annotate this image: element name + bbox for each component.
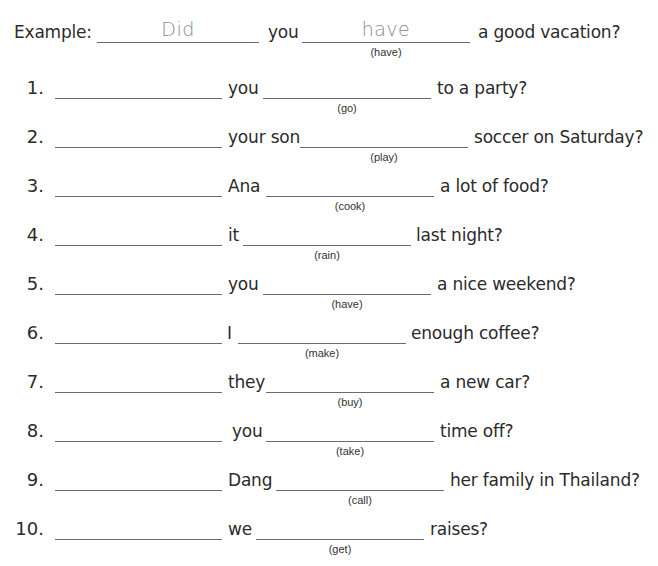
blank-verb[interactable] <box>266 196 434 197</box>
item-number: 9. <box>8 468 44 492</box>
exercise-row-1: 1. you (go) to a party? <box>0 76 658 106</box>
blank-auxiliary[interactable] <box>55 196 222 197</box>
blank-auxiliary[interactable] <box>55 539 222 540</box>
item-subject: your son <box>228 125 300 149</box>
exercise-row-7: 7. they (buy) a new car? <box>0 370 658 400</box>
exercise-row-6: 6. I (make) enough coffee? <box>0 321 658 351</box>
exercise-row-8: 8. you (take) time off? <box>0 419 658 449</box>
item-ending: raises? <box>430 517 488 541</box>
item-number: 5. <box>8 272 44 296</box>
blank-auxiliary[interactable] <box>55 147 222 148</box>
blank-auxiliary[interactable] <box>55 98 222 99</box>
item-ending: time off? <box>440 419 513 443</box>
item-hint: (make) <box>238 347 406 359</box>
item-hint: (call) <box>276 494 444 506</box>
item-number: 1. <box>8 76 44 100</box>
item-hint: (buy) <box>266 396 434 408</box>
item-subject: you <box>232 419 263 443</box>
item-number: 8. <box>8 419 44 443</box>
item-subject: you <box>228 272 259 296</box>
example-answer-2: have <box>302 18 470 40</box>
example-hint: (have) <box>302 46 470 58</box>
blank-verb[interactable] <box>263 98 431 99</box>
example-blank-1[interactable] <box>97 42 259 43</box>
example-label: Example: <box>14 20 92 44</box>
item-subject: I <box>227 321 232 345</box>
item-ending: a nice weekend? <box>437 272 576 296</box>
item-hint: (cook) <box>266 200 434 212</box>
exercise-row-10: 10. we (get) raises? <box>0 517 658 547</box>
blank-auxiliary[interactable] <box>55 343 222 344</box>
blank-verb[interactable] <box>266 392 434 393</box>
item-number: 2. <box>8 125 44 149</box>
item-ending: a lot of food? <box>440 174 549 198</box>
item-number: 7. <box>8 370 44 394</box>
item-ending: soccer on Saturday? <box>474 125 643 149</box>
example-ending: a good vacation? <box>478 20 620 44</box>
blank-verb[interactable] <box>300 147 468 148</box>
example-blank-2[interactable] <box>302 42 470 43</box>
item-subject: Dang <box>228 468 272 492</box>
item-subject: you <box>228 76 259 100</box>
item-subject: it <box>228 223 239 247</box>
exercise-row-9: 9. Dang (call) her family in Thailand? <box>0 468 658 498</box>
item-ending: her family in Thailand? <box>450 468 640 492</box>
item-hint: (have) <box>263 298 431 310</box>
item-hint: (play) <box>300 151 468 163</box>
item-ending: enough coffee? <box>411 321 539 345</box>
item-number: 10. <box>8 517 44 541</box>
blank-auxiliary[interactable] <box>55 392 222 393</box>
item-ending: a new car? <box>440 370 530 394</box>
exercise-row-4: 4. it (rain) last night? <box>0 223 658 253</box>
exercise-row-3: 3. Ana (cook) a lot of food? <box>0 174 658 204</box>
blank-verb[interactable] <box>263 294 431 295</box>
blank-verb[interactable] <box>256 539 424 540</box>
blank-auxiliary[interactable] <box>55 490 222 491</box>
blank-verb[interactable] <box>243 245 411 246</box>
blank-verb[interactable] <box>276 490 444 491</box>
blank-auxiliary[interactable] <box>55 441 222 442</box>
item-subject: Ana <box>228 174 260 198</box>
blank-auxiliary[interactable] <box>55 294 222 295</box>
example-answer-1: Did <box>97 18 259 40</box>
item-number: 3. <box>8 174 44 198</box>
item-number: 6. <box>8 321 44 345</box>
item-ending: last night? <box>416 223 503 247</box>
example-subject: you <box>268 20 299 44</box>
blank-auxiliary[interactable] <box>55 245 222 246</box>
item-hint: (get) <box>256 543 424 555</box>
blank-verb[interactable] <box>266 441 434 442</box>
item-hint: (take) <box>266 445 434 457</box>
example-row: Example: Did you have (have) a good vaca… <box>0 20 658 50</box>
item-ending: to a party? <box>437 76 527 100</box>
exercise-row-2: 2. your son (play) soccer on Saturday? <box>0 125 658 155</box>
item-number: 4. <box>8 223 44 247</box>
item-subject: they <box>228 370 265 394</box>
item-hint: (rain) <box>243 249 411 261</box>
item-subject: we <box>228 517 252 541</box>
blank-verb[interactable] <box>238 343 406 344</box>
item-hint: (go) <box>263 102 431 114</box>
exercise-row-5: 5. you (have) a nice weekend? <box>0 272 658 302</box>
